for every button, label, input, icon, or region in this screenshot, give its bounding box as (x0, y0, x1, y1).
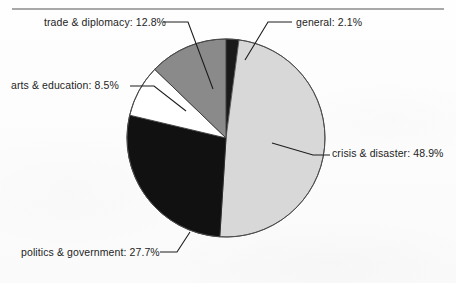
slice-label-arts-education: arts & education: 8.5% (11, 80, 119, 91)
slice-label-politics-government: politics & government: 27.7% (21, 247, 160, 258)
pie-chart-page: trade & diplomacy: 12.8% general: 2.1% a… (0, 0, 456, 283)
slice-label-trade-diplomacy: trade & diplomacy: 12.8% (44, 17, 166, 28)
pie-chart (0, 0, 456, 283)
leader-line-politics (160, 232, 190, 252)
slice-label-general: general: 2.1% (296, 17, 362, 28)
slice-label-crisis-disaster: crisis & disaster: 48.9% (332, 148, 444, 159)
pie-slice-crisis-disaster[interactable] (220, 40, 325, 237)
pie-slices (127, 39, 325, 237)
